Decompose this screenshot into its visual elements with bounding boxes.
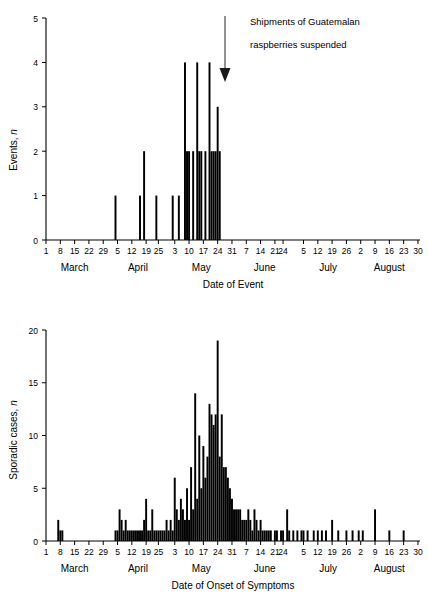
cases-panel: Sporadic cases, n 05101520 1815222951219… <box>8 326 423 592</box>
bar <box>274 530 276 541</box>
bar <box>307 530 309 541</box>
bar <box>256 520 258 541</box>
bar <box>121 520 123 541</box>
bar <box>258 530 260 541</box>
y-tick-label: 5 <box>33 14 38 24</box>
month-label: August <box>374 262 405 273</box>
x-tick-label: 17 <box>199 547 209 557</box>
x-tick-label: 12 <box>127 547 137 557</box>
bar <box>215 414 217 541</box>
x-tick-label: 23 <box>399 246 409 256</box>
bar <box>235 509 237 541</box>
x-tick-label: 19 <box>327 246 337 256</box>
bar <box>331 520 333 541</box>
events-month-labels: MarchAprilMayJuneJulyAugust <box>61 262 405 273</box>
bar <box>131 530 133 541</box>
bar <box>119 509 121 541</box>
bar <box>143 151 145 240</box>
y-tick-label: 0 <box>33 236 38 246</box>
bar <box>321 530 323 541</box>
down-arrow-icon <box>220 16 231 82</box>
cases-y-axis-label: Sporadic cases, n <box>8 400 19 480</box>
bar <box>247 509 249 541</box>
x-tick-label: 9 <box>373 246 378 256</box>
bar <box>231 499 233 541</box>
bar <box>172 196 174 240</box>
x-tick-label: 5 <box>115 547 120 557</box>
month-label: May <box>192 563 211 574</box>
month-label: August <box>374 563 405 574</box>
bar <box>155 196 157 240</box>
bar <box>313 530 315 541</box>
month-label: July <box>319 262 337 273</box>
y-tick-label: 20 <box>29 326 39 336</box>
x-tick-label: 12 <box>127 246 137 256</box>
bar <box>221 414 223 541</box>
bar <box>282 530 284 541</box>
figure-svg: Events, n 012345 18152229512192531017243… <box>0 0 428 605</box>
bar <box>325 530 327 541</box>
bar <box>139 530 141 541</box>
bar <box>251 530 253 541</box>
bar <box>196 62 198 240</box>
suspension-annotation: Shipments of Guatemalan raspberries susp… <box>220 16 360 82</box>
bar <box>209 404 211 541</box>
bar <box>260 520 262 541</box>
x-tick-label: 7 <box>244 246 249 256</box>
bar <box>237 509 239 541</box>
events-y-axis-label-text: Events, <box>8 135 19 171</box>
bar <box>188 151 190 240</box>
x-tick-label: 14 <box>256 246 266 256</box>
x-tick-label: 9 <box>373 547 378 557</box>
bar <box>127 530 129 541</box>
bar <box>337 530 339 541</box>
x-tick-label: 23 <box>399 547 409 557</box>
x-tick-label: 1 <box>44 246 49 256</box>
x-tick-label: 8 <box>58 547 63 557</box>
x-tick-label: 15 <box>70 547 80 557</box>
bar <box>217 341 219 541</box>
bar <box>178 196 180 240</box>
bar <box>168 530 170 541</box>
bar <box>276 530 278 541</box>
x-tick-label: 19 <box>141 246 151 256</box>
x-tick-label: 19 <box>141 547 151 557</box>
bar <box>117 530 119 541</box>
x-tick-label: 19 <box>327 547 337 557</box>
bar <box>223 467 225 541</box>
x-tick-label: 22 <box>84 547 94 557</box>
annotation-line-2: raspberries suspended <box>250 39 347 50</box>
bar <box>178 520 180 541</box>
month-label: June <box>254 563 276 574</box>
y-tick-label: 15 <box>29 378 39 388</box>
bar <box>209 62 211 240</box>
y-tick-label: 2 <box>33 147 38 157</box>
x-tick-label: 5 <box>301 246 306 256</box>
bar <box>192 509 194 541</box>
cases-y-ticks: 05101520 <box>29 326 46 547</box>
bar <box>192 151 194 240</box>
bar <box>204 151 206 240</box>
x-tick-label: 29 <box>98 246 108 256</box>
x-tick-label: 24 <box>213 246 223 256</box>
x-tick-label: 1 <box>44 547 49 557</box>
bar <box>61 530 63 541</box>
month-label: April <box>128 262 148 273</box>
bar <box>213 425 215 541</box>
bar <box>253 509 255 541</box>
x-tick-label: 24 <box>213 547 223 557</box>
bar <box>196 499 198 541</box>
bar <box>300 530 302 541</box>
cases-x-ticks: 1815222951219253101724317142124512192629… <box>44 541 423 557</box>
bar <box>225 467 227 541</box>
bar <box>153 530 155 541</box>
bar <box>204 478 206 541</box>
cases-y-axis-label-italic: n <box>8 400 19 406</box>
month-label: March <box>61 563 89 574</box>
x-tick-label: 7 <box>244 547 249 557</box>
x-tick-label: 14 <box>256 547 266 557</box>
x-tick-label: 29 <box>98 547 108 557</box>
bar <box>186 488 188 541</box>
bar <box>374 509 376 541</box>
bar <box>345 530 347 541</box>
